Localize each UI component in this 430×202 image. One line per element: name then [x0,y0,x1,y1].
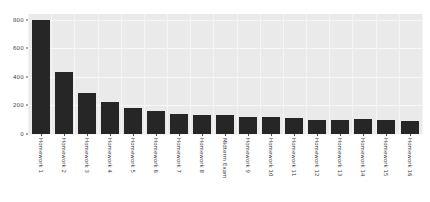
y-axis-tick-label: 600 [13,45,24,51]
x-axis-tick-label: Midterm Exam [222,138,228,178]
y-axis-tick-label: 0 [20,131,24,137]
bar[interactable] [285,118,303,134]
bar[interactable] [216,115,234,134]
bar-slot [190,14,213,134]
x-axis-slot: Homework 14 [352,134,375,190]
x-axis-tick-mark [156,134,157,136]
bar[interactable] [101,102,119,134]
bar[interactable] [193,115,211,134]
bar[interactable] [147,111,165,134]
x-axis-slot: Homework 12 [306,134,329,190]
bar[interactable] [32,20,50,134]
x-axis-tick-label: Homework 9 [245,138,251,173]
x-axis-tick-mark [317,134,318,136]
x-axis-tick-mark [225,134,226,136]
x-axis-tick-mark [340,134,341,136]
x-axis-tick-mark [386,134,387,136]
x-axis-slot: Homework 16 [398,134,421,190]
x-axis-slot: Homework 5 [121,134,144,190]
bar-chart-figure: 0200400600800 Homework 1Homework 2Homewo… [0,0,430,202]
bar-slot [29,14,52,134]
bar[interactable] [354,119,372,134]
x-axis-tick-label: Homework 5 [130,138,136,173]
bar-slot [306,14,329,134]
x-axis-tick-mark [179,134,180,136]
x-axis-tick-mark [64,134,65,136]
bar-slot [121,14,144,134]
x-axis-tick-label: Homework 3 [84,138,90,173]
y-axis: 0200400600800 [0,14,28,134]
x-axis: Homework 1Homework 2Homework 3Homework 4… [28,134,422,190]
x-axis-tick-mark [41,134,42,136]
x-axis-tick-mark [271,134,272,136]
bar-slot [398,14,421,134]
x-axis-tick-label: Homework 4 [107,138,113,173]
x-axis-tick-label: Homework 16 [407,138,413,177]
bar[interactable] [377,120,395,134]
x-axis-slot: Homework 7 [167,134,190,190]
bar-slot [352,14,375,134]
x-axis-slot: Homework 9 [237,134,260,190]
x-axis-slot: Homework 11 [283,134,306,190]
x-axis-slot: Homework 3 [75,134,98,190]
bar[interactable] [170,114,188,134]
bar-slot [52,14,75,134]
y-axis-tick-label: 400 [13,74,24,80]
x-axis-tick-mark [248,134,249,136]
x-axis-tick-label: Homework 12 [314,138,320,177]
x-axis-slot: Homework 8 [190,134,213,190]
x-axis-tick-mark [87,134,88,136]
x-axis-tick-label: Homework 2 [61,138,67,173]
bar-slot [144,14,167,134]
bar-slot [260,14,283,134]
x-axis-tick-mark [294,134,295,136]
x-axis-tick-label: Homework 1 [38,138,44,173]
x-axis-tick-label: Homework 8 [199,138,205,173]
bar[interactable] [124,108,142,134]
x-axis-slot: Homework 15 [375,134,398,190]
bar-slot [214,14,237,134]
bar[interactable] [401,121,419,134]
bar[interactable] [78,93,96,134]
x-axis-slot: Homework 2 [52,134,75,190]
x-axis-slot: Homework 4 [98,134,121,190]
x-axis-tick-mark [363,134,364,136]
x-axis-tick-label: Homework 11 [291,138,297,177]
x-axis-tick-label: Homework 14 [360,138,366,177]
bar[interactable] [262,117,280,134]
x-axis-slot: Homework 1 [29,134,52,190]
bar[interactable] [308,120,326,134]
bar-slot [98,14,121,134]
x-axis-slot: Midterm Exam [214,134,237,190]
y-axis-tick-label: 200 [13,102,24,108]
x-axis-tick-mark [410,134,411,136]
bar[interactable] [331,120,349,134]
plot-area-wrapper [28,14,422,134]
bar-slot [75,14,98,134]
x-axis-tick-label: Homework 7 [176,138,182,173]
x-axis-tick-mark [110,134,111,136]
bar-slot [283,14,306,134]
y-axis-tick-label: 800 [13,17,24,23]
x-axis-slot: Homework 13 [329,134,352,190]
x-axis-tick-label: Homework 15 [383,138,389,177]
x-axis-slot: Homework 10 [260,134,283,190]
bar-slot [375,14,398,134]
x-axis-tick-label: Homework 13 [337,138,343,177]
x-axis-tick-label: Homework 6 [153,138,159,173]
bar-slot [329,14,352,134]
bar[interactable] [55,72,73,134]
x-axis-tick-mark [202,134,203,136]
bar-slot [167,14,190,134]
gridline-vertical [422,14,423,134]
x-axis-slot: Homework 6 [144,134,167,190]
bar-series [28,14,422,134]
bar-slot [237,14,260,134]
x-axis-tick-label: Homework 10 [268,138,274,177]
x-axis-tick-mark [133,134,134,136]
bar[interactable] [239,117,257,134]
